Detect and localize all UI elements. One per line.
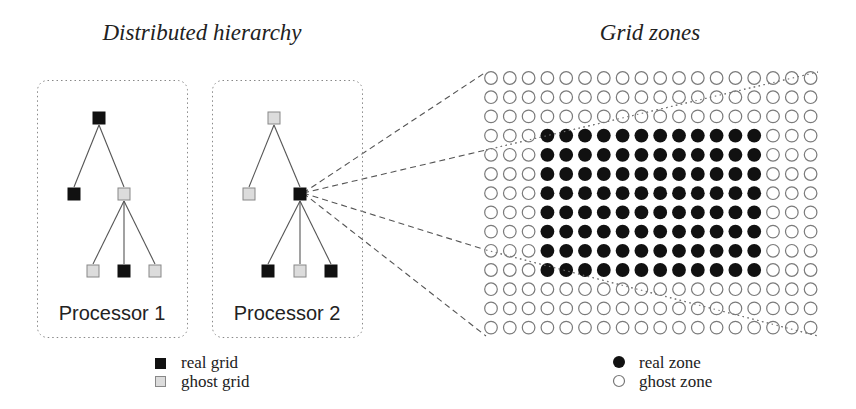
ghost-zone	[485, 321, 498, 334]
ghost-zone	[767, 149, 780, 162]
ghost-zone	[804, 187, 817, 200]
real-zone	[635, 244, 649, 258]
real-zone	[559, 244, 573, 258]
ghost-zone	[522, 129, 535, 142]
tree-edge	[124, 201, 155, 264]
ghost-zone	[767, 302, 780, 315]
ghost-zone	[673, 91, 686, 104]
real-zone	[747, 244, 761, 258]
ghost-zone	[635, 91, 648, 104]
ghost-zone	[522, 206, 535, 219]
ghost-zone	[748, 283, 761, 296]
real-zone	[597, 129, 611, 143]
ghost-zone-legend-swatch	[614, 376, 625, 387]
real-zone	[747, 129, 761, 143]
real-zone	[541, 148, 555, 162]
real-zone	[710, 148, 724, 162]
ghost-zone	[504, 168, 517, 181]
ghost-zone	[804, 206, 817, 219]
real-zone	[559, 167, 573, 181]
ghost-zone	[635, 110, 648, 123]
real-zone	[729, 225, 743, 239]
real-zone	[653, 263, 667, 277]
ghost-grid-node	[149, 265, 161, 277]
ghost-zone	[804, 91, 817, 104]
ghost-zone	[598, 302, 611, 315]
real-zone	[559, 263, 573, 277]
ghost-zone	[598, 321, 611, 334]
ghost-zone	[598, 72, 611, 85]
ghost-grid-node	[243, 188, 255, 200]
ghost-zone	[522, 91, 535, 104]
real-zone	[578, 244, 592, 258]
real-zone	[729, 206, 743, 220]
ghost-zone	[504, 321, 517, 334]
ghost-zone	[541, 91, 554, 104]
ghost-zone	[729, 283, 742, 296]
ghost-zone	[522, 302, 535, 315]
real-zone	[691, 148, 705, 162]
real-grid-node	[325, 265, 337, 277]
real-zone	[729, 186, 743, 200]
ghost-zone	[786, 225, 799, 238]
ghost-zone	[673, 321, 686, 334]
real-zone	[710, 244, 724, 258]
real-zone	[729, 244, 743, 258]
ghost-zone	[654, 72, 667, 85]
ghost-zone	[786, 187, 799, 200]
ghost-zone	[748, 110, 761, 123]
ghost-zone	[522, 225, 535, 238]
ghost-zone	[504, 264, 517, 277]
ghost-zone	[710, 110, 723, 123]
ghost-zone	[522, 321, 535, 334]
ghost-zone	[635, 302, 648, 315]
ghost-zone	[522, 149, 535, 162]
ghost-zone	[560, 72, 573, 85]
real-zone	[710, 263, 724, 277]
real-zone	[691, 225, 705, 239]
real-zone	[541, 186, 555, 200]
real-zone	[635, 206, 649, 220]
ghost-zone	[541, 283, 554, 296]
ghost-zone	[485, 206, 498, 219]
real-zone	[635, 129, 649, 143]
ghost-zone	[485, 264, 498, 277]
zone-legend: real zone ghost zone	[613, 353, 712, 391]
processor-label: Processor 1	[59, 302, 166, 324]
ghost-grid-node	[87, 265, 99, 277]
ghost-zone	[804, 225, 817, 238]
real-zone	[710, 167, 724, 181]
ghost-grid-node	[118, 188, 130, 200]
real-zone	[578, 206, 592, 220]
ghost-zone	[541, 302, 554, 315]
ghost-zone	[485, 187, 498, 200]
ghost-zone	[504, 72, 517, 85]
real-zone	[578, 225, 592, 239]
dashed-connector-line	[303, 150, 486, 193]
real-zone	[616, 167, 630, 181]
real-zone	[653, 148, 667, 162]
real-zone	[541, 225, 555, 239]
ghost-zone	[729, 91, 742, 104]
ghost-zone	[786, 110, 799, 123]
dashed-connector-line	[303, 72, 486, 193]
ghost-zone	[748, 321, 761, 334]
ghost-zone	[710, 91, 723, 104]
real-zone	[710, 129, 724, 143]
ghost-zone	[504, 225, 517, 238]
ghost-zone	[729, 110, 742, 123]
real-zone	[578, 129, 592, 143]
real-zone	[691, 129, 705, 143]
ghost-zone	[579, 110, 592, 123]
real-zone	[672, 167, 686, 181]
ghost-zone	[560, 321, 573, 334]
ghost-zone	[654, 91, 667, 104]
ghost-zone	[485, 91, 498, 104]
tree-edge	[93, 201, 124, 264]
real-zone	[616, 263, 630, 277]
ghost-zone	[692, 110, 705, 123]
tree-edge	[249, 125, 274, 187]
processor-panel-1: Processor 1	[38, 81, 188, 338]
ghost-zone	[804, 302, 817, 315]
real-zone-legend-label: real zone	[639, 353, 701, 372]
